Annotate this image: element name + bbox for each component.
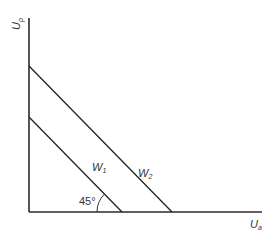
y-axis-label: U xyxy=(10,22,22,30)
w2-subscript: 2 xyxy=(147,173,152,180)
y-axis-subscript: p xyxy=(17,18,25,23)
w1-line xyxy=(29,117,122,212)
svg-text:W1: W1 xyxy=(92,161,106,174)
svg-text:Up: Up xyxy=(10,18,25,30)
svg-text:Ua: Ua xyxy=(250,218,262,231)
utility-possibility-diagram: Up Ua W1 W2 45° xyxy=(0,0,279,232)
x-axis-subscript: a xyxy=(258,224,262,231)
w1-subscript: 1 xyxy=(102,167,106,174)
angle-arc xyxy=(97,194,104,212)
x-axis-label: U xyxy=(250,218,258,230)
angle-label: 45° xyxy=(79,195,96,207)
svg-text:W2: W2 xyxy=(138,167,152,180)
